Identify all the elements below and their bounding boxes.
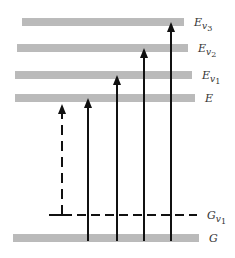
- level-label-ev3: Ev3: [193, 16, 212, 33]
- transition-g-to-ev3: [167, 22, 175, 241]
- arrowhead-icon: [58, 104, 66, 114]
- level-ev2: [17, 45, 188, 51]
- level-label-g: G: [209, 232, 218, 245]
- transition-g-to-ev1: [113, 75, 121, 241]
- level-label-e: E: [204, 92, 213, 105]
- level-e: [15, 95, 195, 101]
- level-labels: Ev3Ev2Ev1EGv1G: [193, 16, 226, 245]
- level-label-gv1: Gv1: [207, 209, 226, 226]
- transitions: [49, 22, 175, 241]
- level-ev3: [22, 19, 184, 25]
- transition-gv1-to-e: [49, 104, 66, 215]
- transition-g-to-ev2: [140, 48, 148, 241]
- energy-level-diagram: Ev3Ev2Ev1EGv1G: [0, 0, 235, 258]
- level-label-ev1: Ev1: [201, 69, 220, 86]
- transition-g-to-e: [84, 98, 92, 241]
- level-label-ev2: Ev2: [197, 42, 216, 59]
- level-ev1: [15, 72, 192, 78]
